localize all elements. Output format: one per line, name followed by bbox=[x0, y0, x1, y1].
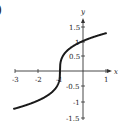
y-tick-label: -1 bbox=[73, 99, 80, 107]
y-axis-label: y bbox=[80, 8, 86, 16]
x-axis-arrow-icon bbox=[107, 69, 112, 73]
y-tick-label: 1.5 bbox=[69, 24, 80, 32]
x-tick-label: 1 bbox=[104, 76, 108, 84]
plot-area: -3 -2 -1 1 x 1.5 1 0.5 -0.5 -1 -1.5 y bbox=[0, 0, 124, 132]
x-axis-label: x bbox=[114, 68, 118, 76]
x-tick-label: -2 bbox=[35, 76, 42, 84]
y-tick-label: 0.5 bbox=[69, 53, 80, 61]
x-tick-label: -3 bbox=[12, 76, 19, 84]
y-axis-arrow-icon bbox=[81, 18, 85, 23]
y-tick-label: -1.5 bbox=[66, 115, 80, 123]
y-tick-label: -0.5 bbox=[66, 83, 80, 91]
